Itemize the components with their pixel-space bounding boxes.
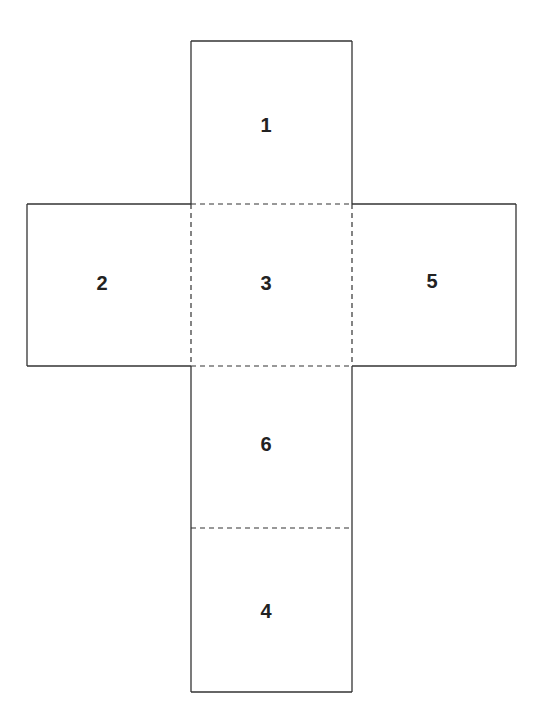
face-6-label: 6 xyxy=(260,434,271,454)
fold-lines xyxy=(191,204,352,528)
cut-lines xyxy=(27,41,516,692)
face-3-label: 3 xyxy=(260,273,271,293)
face-1-label: 1 xyxy=(260,115,271,135)
face-4-label: 4 xyxy=(260,601,271,621)
cube-net-diagram xyxy=(0,0,546,724)
face-5-label: 5 xyxy=(426,271,437,291)
face-2-label: 2 xyxy=(96,273,107,293)
